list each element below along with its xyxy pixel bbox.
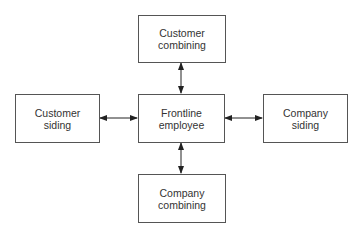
node-label: Customer siding [35, 107, 81, 131]
node-label: Customer combining [158, 27, 206, 51]
node-customer-siding: Customer siding [15, 94, 100, 143]
node-label: Frontline employee [159, 107, 205, 131]
node-label: Company combining [158, 187, 206, 211]
node-company-siding: Company siding [263, 94, 348, 143]
node-company-combining: Company combining [138, 174, 226, 223]
node-frontline-employee: Frontline employee [138, 94, 225, 143]
node-label: Company siding [283, 107, 328, 131]
node-customer-combining: Customer combining [138, 15, 226, 63]
